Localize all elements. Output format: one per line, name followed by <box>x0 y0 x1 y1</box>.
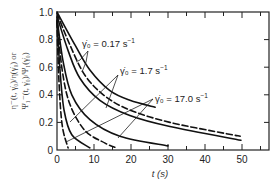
y-axis-title-line1: η⁻(t, γ̇₀)/η(γ̇₀) or <box>8 52 18 109</box>
y-tick-label: 0.8 <box>39 34 53 45</box>
annotation-arrow <box>70 75 118 122</box>
annotation-arrow <box>66 99 153 142</box>
y-tick-label: 1.0 <box>39 7 53 18</box>
data-series-line <box>57 18 168 146</box>
chart-figure: 0102030405000.20.40.60.81.0 η⁻(t, γ̇₀)/η… <box>0 0 278 183</box>
x-tick-label: 50 <box>236 154 248 165</box>
x-tick-label: 0 <box>54 154 60 165</box>
data-series-line <box>57 16 241 140</box>
y-tick-label: 0.2 <box>39 117 53 128</box>
annotation-text: γ̇₀ = 17.0 s <box>155 93 201 104</box>
y-axis-title: η⁻(t, γ̇₀)/η(γ̇₀) or Ψ₁⁻(t, γ̇₀)/Ψ₁(γ̇₀) <box>8 52 30 109</box>
y-tick-label: 0.4 <box>39 89 53 100</box>
y-axis-title-line2: Ψ₁⁻(t, γ̇₀)/Ψ₁(γ̇₀) <box>20 52 30 109</box>
svg-text:γ̇₀ = 1.7 s−1: γ̇₀ = 1.7 s−1 <box>120 64 168 76</box>
x-axis-title: t (s) <box>152 168 168 179</box>
x-tick-label: 40 <box>199 154 211 165</box>
plot-area: 0102030405000.20.40.60.81.0 η⁻(t, γ̇₀)/η… <box>0 0 278 183</box>
annotation-text: γ̇₀ = 1.7 s <box>120 65 160 76</box>
x-tick-label: 20 <box>125 154 137 165</box>
svg-text:γ̇₀ = 17.0 s−1: γ̇₀ = 17.0 s−1 <box>155 92 208 104</box>
x-tick-label: 30 <box>162 154 174 165</box>
annotation-1.7: γ̇₀ = 1.7 s−1 <box>70 64 168 122</box>
data-curves <box>57 12 241 148</box>
x-tick-label: 10 <box>88 154 100 165</box>
annotation-arrow <box>118 99 153 138</box>
annotation-superscript: −1 <box>200 92 208 99</box>
y-tick-label: 0.6 <box>39 62 53 73</box>
svg-text:γ̇₀ = 0.17 s−1: γ̇₀ = 0.17 s−1 <box>82 37 135 49</box>
annotation-superscript: −1 <box>127 37 135 44</box>
annotation-text: γ̇₀ = 0.17 s <box>82 38 128 49</box>
annotation-superscript: −1 <box>160 64 168 71</box>
y-tick-label: 0 <box>47 145 53 156</box>
